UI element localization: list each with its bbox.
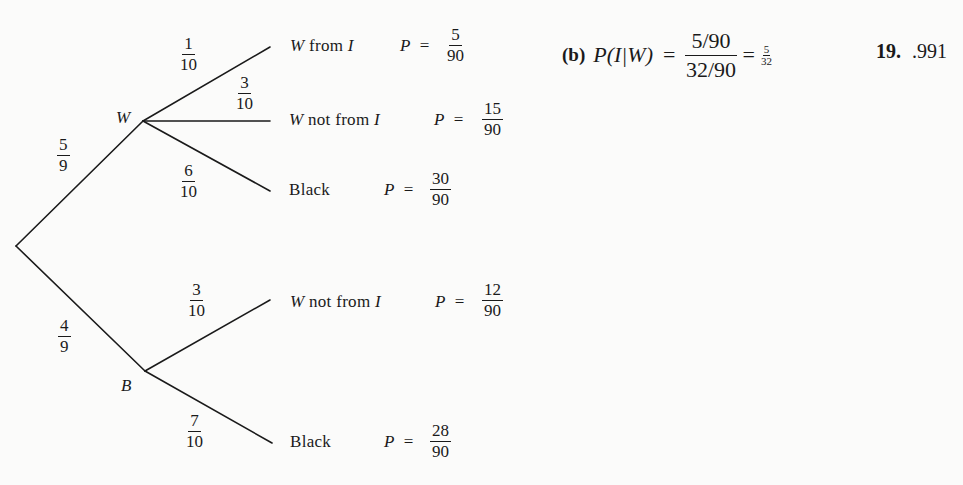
equals-sign: =: [663, 42, 675, 68]
outcome-prob-b-black: 28 90: [430, 422, 451, 461]
outcome-prob-w-from-i: 5 90: [447, 26, 464, 65]
prob-w-black: 6 10: [180, 162, 197, 201]
outcome-label-b-black: Black: [290, 432, 331, 452]
conditional-fraction: 5/90 32/90: [685, 29, 736, 82]
outcome-prob-w-black: 30 90: [430, 170, 451, 209]
branch-root-to-b: [16, 246, 145, 371]
outcome-p-w-black: P =: [384, 180, 414, 200]
branch-root-to-w: [16, 121, 143, 246]
outcome-label-w-not-from-i: W not from I: [289, 110, 380, 130]
problem-number: 19.: [876, 40, 901, 62]
prob-root-to-w: 5 9: [57, 136, 70, 175]
conditional-probability-lhs: P(I|W): [593, 42, 653, 68]
outcome-p-w-not-from-i: P =: [434, 110, 464, 130]
problem-answer: .991: [912, 40, 947, 62]
branch-b-w-not-from-i: [145, 300, 270, 371]
outcome-p-b-black: P =: [384, 432, 414, 452]
prob-w-not-from-i: 3 10: [236, 74, 253, 113]
node-label-b: B: [121, 376, 131, 396]
outcome-prob-w-not-from-i: 15 90: [482, 100, 503, 139]
outcome-p-w-from-i: P =: [400, 36, 430, 56]
part-label-b: (b): [562, 44, 585, 66]
node-label-w: W: [116, 108, 130, 128]
outcome-p-b-w-not-from-i: P =: [435, 292, 465, 312]
branch-b-black: [145, 371, 272, 443]
result-fraction: 5 32: [761, 44, 772, 67]
prob-b-black: 7 10: [186, 412, 203, 451]
prob-b-w-not-from-i: 3 10: [188, 281, 205, 320]
outcome-label-w-black: Black: [289, 180, 330, 200]
branch-w-black: [143, 121, 270, 191]
prob-root-to-b: 4 9: [58, 317, 71, 356]
outcome-label-w-from-i: W from I: [290, 36, 354, 56]
answer-b-equation: (b) P(I|W) = 5/90 32/90 = 5 32: [562, 28, 772, 82]
tree-diagram-lines: [0, 0, 963, 485]
equals-sign-2: =: [743, 42, 755, 68]
outcome-label-b-w-not-from-i: W not from I: [290, 292, 381, 312]
prob-w-from-i: 1 10: [180, 35, 197, 74]
answer-19: 19. .991: [876, 40, 947, 63]
outcome-prob-b-w-not-from-i: 12 90: [482, 281, 503, 320]
